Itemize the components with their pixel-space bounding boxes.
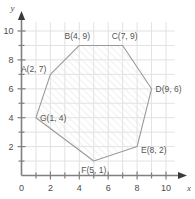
vertex-label-f: F(5, 1) [81,165,106,175]
x-tick-label: 6 [106,183,111,193]
y-tick-label: 2 [8,142,13,152]
y-axis-label: y [10,3,15,13]
x-tick-label: 2 [48,183,53,193]
y-axis-arrowhead-icon [18,11,25,20]
x-axis-arrowhead-icon [178,172,187,179]
y-tick-label: 10 [3,26,13,36]
x-tick-label: 0 [19,183,24,193]
x-tick-label: 10 [161,183,171,193]
vertex-label-c: C(7, 9) [112,31,138,41]
vertex-label-a: A(2, 7) [21,64,47,74]
plot-canvas: 0246810246810 xy A(2, 7)B(4, 9)C(7, 9)D(… [0,0,195,199]
x-tick-label: 4 [77,183,82,193]
vertex-label-e: E(8, 2) [141,145,167,155]
vertex-label-b: B(4, 9) [65,31,91,41]
vertex-label-d: D(9, 6) [156,84,182,94]
polygon-shape [36,45,152,161]
x-tick-label: 8 [135,183,140,193]
x-axis-label: x [186,183,191,193]
y-tick-label: 4 [8,113,13,123]
vertex-label-g: G(1, 4) [40,113,67,123]
y-tick-label: 6 [8,84,13,94]
y-tick-label: 8 [8,55,13,65]
coordinate-plane-figure: 0246810246810 xy A(2, 7)B(4, 9)C(7, 9)D(… [0,0,195,199]
